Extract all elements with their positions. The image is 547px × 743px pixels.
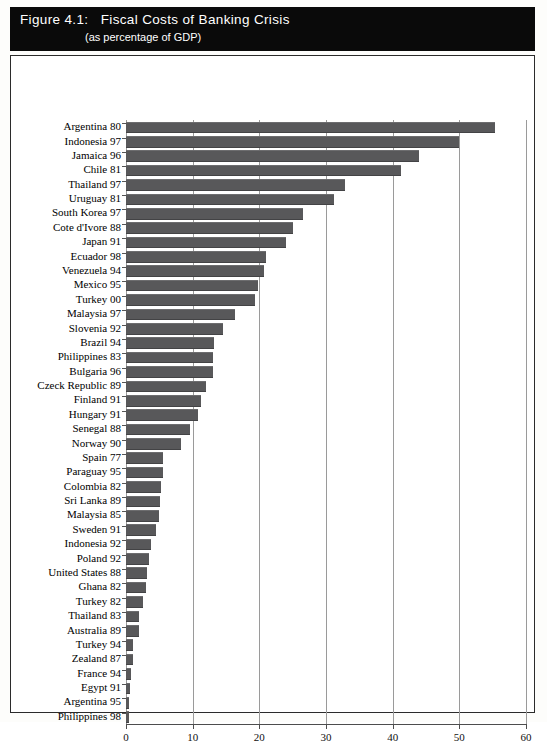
bar-chart-plot: 0102030405060Argentina 80Indonesia 97Jam… xyxy=(126,120,526,738)
category-label: Norway 90 xyxy=(0,437,121,450)
bar-row: Argentina 95 xyxy=(126,695,526,709)
bar xyxy=(126,668,131,680)
x-axis-tick-label: 50 xyxy=(454,731,465,743)
bar-row: Indonesia 97 xyxy=(126,134,526,148)
category-label: Chile 81 xyxy=(0,163,121,176)
bar-row: Australia 89 xyxy=(126,623,526,637)
category-label: Indonesia 97 xyxy=(0,135,121,148)
bar-row: Paraguay 95 xyxy=(126,465,526,479)
category-label: Uruguay 81 xyxy=(0,192,121,205)
bar-row: Jamaica 96 xyxy=(126,149,526,163)
bar xyxy=(126,222,293,234)
bar-row: South Korea 97 xyxy=(126,206,526,220)
category-label: Hungary 91 xyxy=(0,408,121,421)
category-label: Slovenia 92 xyxy=(0,322,121,335)
bar xyxy=(126,582,146,594)
bar xyxy=(126,237,286,249)
category-label: Argentina 95 xyxy=(0,695,121,708)
bar xyxy=(126,251,266,263)
bar xyxy=(126,165,401,177)
bar-row: Uruguay 81 xyxy=(126,192,526,206)
category-label: Turkey 00 xyxy=(0,293,121,306)
bar-row: Chile 81 xyxy=(126,163,526,177)
bar xyxy=(126,452,163,464)
x-axis-tick-label: 40 xyxy=(387,731,398,743)
bar xyxy=(126,280,258,292)
category-label: Sweden 91 xyxy=(0,523,121,536)
bar xyxy=(126,323,223,335)
bar xyxy=(126,596,143,608)
category-label: Brazil 94 xyxy=(0,336,121,349)
x-axis-tick xyxy=(526,724,527,729)
category-label: Cote d'Ivore 88 xyxy=(0,221,121,234)
x-axis-tick-label: 30 xyxy=(321,731,332,743)
figure-title-text: Fiscal Costs of Banking Crisis xyxy=(101,12,290,27)
chart-frame: 0102030405060Argentina 80Indonesia 97Jam… xyxy=(10,55,535,713)
bar xyxy=(126,352,213,364)
category-label: United States 88 xyxy=(0,566,121,579)
category-label: Thailand 97 xyxy=(0,178,121,191)
figure-number: Figure 4.1: xyxy=(20,12,88,27)
bar xyxy=(126,639,133,651)
bar-row: Thailand 83 xyxy=(126,609,526,623)
bar-row: Ghana 82 xyxy=(126,580,526,594)
bar xyxy=(126,294,255,306)
category-label: Ghana 82 xyxy=(0,580,121,593)
category-label: Turkey 94 xyxy=(0,638,121,651)
category-label: Japan 91 xyxy=(0,235,121,248)
figure-subtitle: (as percentage of GDP) xyxy=(85,31,201,43)
category-label: Jamaica 96 xyxy=(0,149,121,162)
bar-row: Malaysia 85 xyxy=(126,508,526,522)
category-label: Argentina 80 xyxy=(0,120,121,133)
category-label: Philippines 98 xyxy=(0,710,121,723)
category-label: France 94 xyxy=(0,667,121,680)
category-label: Colombia 82 xyxy=(0,480,121,493)
bar-row: Turkey 82 xyxy=(126,595,526,609)
bar xyxy=(126,136,459,148)
bar xyxy=(126,409,198,421)
category-label: Zealand 87 xyxy=(0,652,121,665)
bar-row: Mexico 95 xyxy=(126,278,526,292)
category-label: Turkey 82 xyxy=(0,595,121,608)
bar xyxy=(126,150,419,162)
category-label: Czeck Republic 89 xyxy=(0,379,121,392)
category-label: Senegal 88 xyxy=(0,422,121,435)
bar xyxy=(126,611,139,623)
bar-row: France 94 xyxy=(126,666,526,680)
bar-row: Poland 92 xyxy=(126,551,526,565)
bar xyxy=(126,683,130,695)
bar-row: Thailand 97 xyxy=(126,178,526,192)
category-label: Paraguay 95 xyxy=(0,465,121,478)
category-label: Venezuela 94 xyxy=(0,264,121,277)
bar-row: Japan 91 xyxy=(126,235,526,249)
bar xyxy=(126,265,264,277)
bar-row: Cote d'Ivore 88 xyxy=(126,221,526,235)
bar xyxy=(126,381,206,393)
category-label: Thailand 83 xyxy=(0,609,121,622)
bar-row: Egypt 91 xyxy=(126,681,526,695)
x-gridline xyxy=(526,120,527,724)
bar-row: Turkey 00 xyxy=(126,293,526,307)
category-label: Malaysia 85 xyxy=(0,508,121,521)
bar xyxy=(126,337,214,349)
category-label: Spain 77 xyxy=(0,451,121,464)
category-label: Finland 91 xyxy=(0,393,121,406)
x-axis-tick-label: 20 xyxy=(254,731,265,743)
bar xyxy=(126,122,495,134)
bar-row: Finland 91 xyxy=(126,393,526,407)
x-axis-tick-label: 60 xyxy=(521,731,532,743)
category-label: Poland 92 xyxy=(0,552,121,565)
bar-row: Philippines 98 xyxy=(126,710,526,724)
bar xyxy=(126,395,201,407)
bar xyxy=(126,510,159,522)
bar xyxy=(126,481,161,493)
category-label: Egypt 91 xyxy=(0,681,121,694)
bar-row: Colombia 82 xyxy=(126,480,526,494)
bar-row: Hungary 91 xyxy=(126,408,526,422)
bar-row: Slovenia 92 xyxy=(126,321,526,335)
bar-row: Czeck Republic 89 xyxy=(126,379,526,393)
figure-heading: Figure 4.1: Fiscal Costs of Banking Cris… xyxy=(20,12,290,27)
bar-row: Norway 90 xyxy=(126,436,526,450)
category-label: South Korea 97 xyxy=(0,206,121,219)
category-label: Ecuador 98 xyxy=(0,250,121,263)
